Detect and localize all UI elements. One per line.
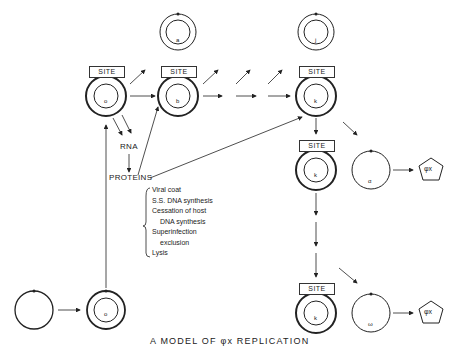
protein-functions-list: Viral coat S.S. DNA synthesis Cessation …: [152, 185, 213, 259]
site-box-bot-k: SITE: [299, 283, 335, 295]
phage-label-1: φx: [424, 165, 432, 172]
site-box-mid-k: SITE: [299, 140, 335, 152]
list-item: exclusion: [152, 238, 213, 249]
node-start-o: o: [104, 311, 107, 317]
diagram-title: A MODEL OF φx REPLICATION: [150, 336, 309, 346]
node-top-j: j: [315, 37, 316, 43]
diagram-lines: [0, 0, 456, 360]
list-item: S.S. DNA synthesis: [152, 196, 213, 207]
rna-label: RNA: [120, 142, 138, 151]
node-row-b: b: [176, 98, 179, 104]
node-top-a: a: [176, 37, 179, 43]
site-box-k: SITE: [299, 66, 335, 78]
proteins-label: PROTEINS: [109, 173, 152, 182]
list-item: Viral coat: [152, 185, 213, 196]
list-item: Cessation of host: [152, 206, 213, 217]
site-box-a: SITE: [89, 66, 125, 78]
node-row-a: o: [104, 98, 107, 104]
phage-label-2: φx: [424, 308, 432, 315]
node-mid-k: k: [314, 172, 317, 178]
list-item: Superinfection: [152, 227, 213, 238]
list-item: Lysis: [152, 248, 213, 259]
node-bot-k: k: [314, 315, 317, 321]
list-item: DNA synthesis: [152, 217, 213, 228]
node-alpha: α: [368, 178, 371, 184]
node-row-k: k: [314, 98, 317, 104]
node-omega: ω: [368, 321, 373, 327]
site-box-b: SITE: [161, 66, 197, 78]
